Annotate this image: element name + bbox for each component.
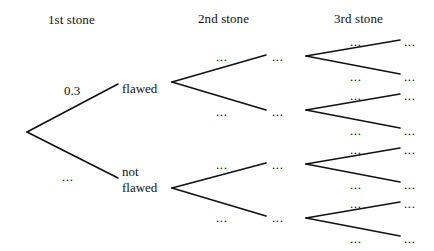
leaf-label-8: ... [404,232,416,246]
column-header-1st-stone: 1st stone [48,13,95,27]
node-label-not-flawed-line1: not [122,164,139,179]
node-label-not-flawed-line2: flawed [122,180,157,195]
edge-label-stage3-3: ... [350,89,362,103]
edge-label-stage3-6: ... [350,178,362,192]
edge-label-stage3-2: ... [350,70,362,84]
node-label-stage2-4: ... [272,211,284,225]
node-label-stage2-2: ... [272,105,284,119]
edge-label-flawed-lower: ... [216,105,228,119]
leaf-label-6: ... [404,178,416,192]
column-header-3rd-stone: 3rd stone [334,12,383,26]
node-label-flawed: flawed [122,82,157,96]
edge-label-stage3-8: ... [350,232,362,246]
node-label-stage2-3: ... [272,158,284,172]
leaf-label-4: ... [404,124,416,138]
node-label-stage2-1: ... [272,50,284,64]
edge-label-root-upper-probability: 0.3 [64,84,80,98]
edge-label-stage3-7: ... [350,197,362,211]
leaf-label-2: ... [404,70,416,84]
edge-label-not-flawed-upper: ... [216,158,228,172]
node-label-not-flawed: notflawed [122,164,157,196]
leaf-label-3: ... [404,89,416,103]
leaf-label-1: ... [404,35,416,49]
leaf-label-5: ... [404,143,416,157]
edge-label-stage3-1: ... [350,35,362,49]
edge-label-flawed-upper: ... [216,50,228,64]
edge-label-stage3-5: ... [350,143,362,157]
column-header-2nd-stone: 2nd stone [198,12,249,26]
edge-label-stage3-4: ... [350,124,362,138]
edge-label-root-lower-probability: ... [62,170,74,184]
leaf-label-7: ... [404,197,416,211]
edge-label-not-flawed-lower: ... [216,211,228,225]
probability-tree-figure: 1st stone 2nd stone 3rd stone 0.3 ... fl… [0,0,434,251]
